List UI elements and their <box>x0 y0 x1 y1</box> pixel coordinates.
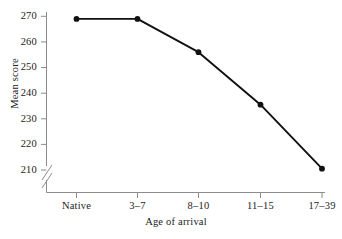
data-point-markers <box>74 16 325 172</box>
x-axis-ticks <box>77 193 323 199</box>
y-tick-label-220: 220 <box>0 138 37 149</box>
x-tick-label-8-10: 8–10 <box>169 200 229 211</box>
y-axis-ticks <box>41 16 47 170</box>
y-tick-label-210: 210 <box>0 164 37 175</box>
x-tick-label-3-7: 3–7 <box>108 200 168 211</box>
x-tick-label-native: Native <box>47 200 107 211</box>
y-tick-label-270: 270 <box>0 10 37 21</box>
data-point-17-39 <box>319 166 325 172</box>
data-point-8-10 <box>196 49 202 55</box>
data-point-3-7 <box>135 16 141 22</box>
data-line-mean-score <box>77 19 323 169</box>
x-tick-label-17-39: 17–39 <box>292 200 342 211</box>
chart-figure: 270 260 250 240 230 220 210 Native 3–7 8… <box>0 0 342 239</box>
x-tick-label-11-15: 11–15 <box>231 200 291 211</box>
data-point-11-15 <box>258 102 264 108</box>
x-axis-title: Age of arrival <box>106 216 246 227</box>
data-point-native <box>74 16 80 22</box>
y-axis-title: Mean score <box>9 44 20 124</box>
